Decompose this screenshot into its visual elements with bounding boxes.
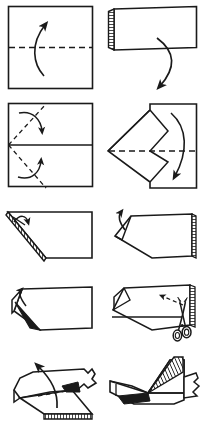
hatched-layer-edge-right [192, 214, 196, 258]
panel-step-3-diagonal-creases [9, 104, 93, 189]
hatched-fold-edge-left [109, 9, 115, 50]
hatched-base-edge [44, 414, 92, 419]
instruction-sheet [0, 0, 207, 438]
hatched-layer-edge-right [190, 285, 195, 327]
folded-rectangle-outline [114, 7, 197, 51]
origami-diagram-canvas [0, 0, 207, 438]
panel-step-1-square-fold-in-half [9, 7, 93, 89]
